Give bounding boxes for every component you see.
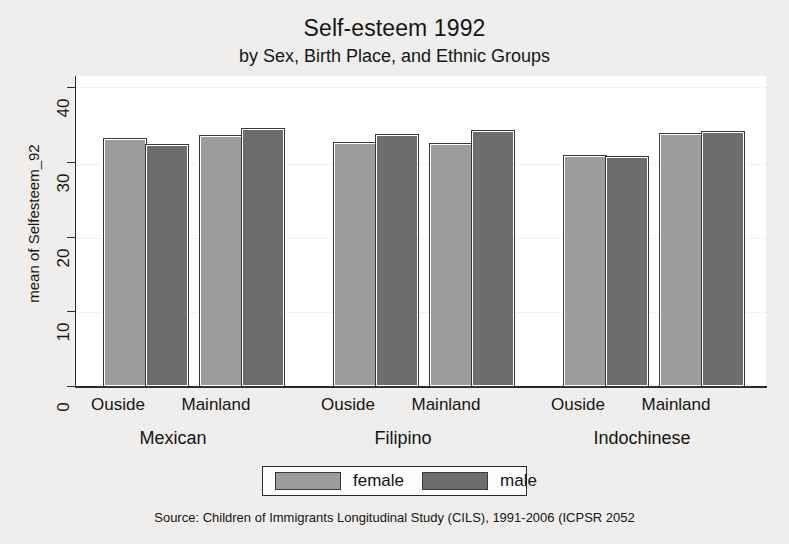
bar-indochinese-mainland-female: [660, 134, 702, 386]
chart-subtitle: by Sex, Birth Place, and Ethnic Groups: [0, 44, 789, 68]
female-swatch-icon: [275, 472, 341, 490]
legend-item-female: female: [263, 467, 410, 495]
y-tick-label-0: 0: [54, 387, 74, 427]
bar-mexican-mainland-female: [200, 136, 242, 386]
x-group-label-mexican: Mexican: [98, 428, 248, 449]
bar-filipino-outside-male: [376, 135, 418, 386]
x-group-label-indochinese: Indochinese: [552, 428, 732, 449]
x-label-mexican-outside: Ouside: [76, 395, 160, 415]
x-label-mexican-mainland: Mainland: [168, 395, 264, 415]
bar-mexican-mainland-male: [242, 129, 284, 386]
y-tick-label-20: 20: [54, 238, 74, 278]
legend-item-male: male: [410, 467, 543, 495]
y-tick-label-40: 40: [54, 88, 74, 128]
bar-mexican-outside-female: [104, 139, 146, 386]
page-title: Self-esteem 1992: [0, 14, 789, 43]
bar-filipino-outside-female: [334, 143, 376, 386]
title-block: Self-esteem 1992 by Sex, Birth Place, an…: [0, 14, 789, 68]
y-axis-label: mean of Selfesteem_92: [25, 99, 42, 349]
x-label-filipino-mainland: Mainland: [398, 395, 494, 415]
male-swatch-icon: [422, 472, 488, 490]
x-label-indochinese-mainland: Mainland: [628, 395, 724, 415]
x-label-filipino-outside: Ouside: [306, 395, 390, 415]
x-axis-line: [75, 386, 767, 388]
bars-layer: [76, 76, 766, 386]
legend-label-male: male: [500, 471, 537, 491]
bar-indochinese-outside-female: [564, 156, 606, 386]
y-tick-label-10: 10: [54, 312, 74, 352]
legend-label-female: female: [353, 471, 404, 491]
legend: female male: [262, 466, 527, 496]
bar-filipino-mainland-female: [430, 144, 472, 386]
chart-figure: Self-esteem 1992 by Sex, Birth Place, an…: [0, 0, 789, 544]
bar-indochinese-mainland-male: [702, 132, 744, 386]
bar-indochinese-outside-male: [606, 157, 648, 386]
y-tick-label-30: 30: [54, 163, 74, 203]
bar-mexican-outside-male: [146, 145, 188, 386]
source-note: Source: Children of Immigrants Longitudi…: [0, 510, 789, 525]
x-label-indochinese-outside: Ouside: [536, 395, 620, 415]
bar-filipino-mainland-male: [472, 131, 514, 386]
x-group-label-filipino: Filipino: [328, 428, 478, 449]
